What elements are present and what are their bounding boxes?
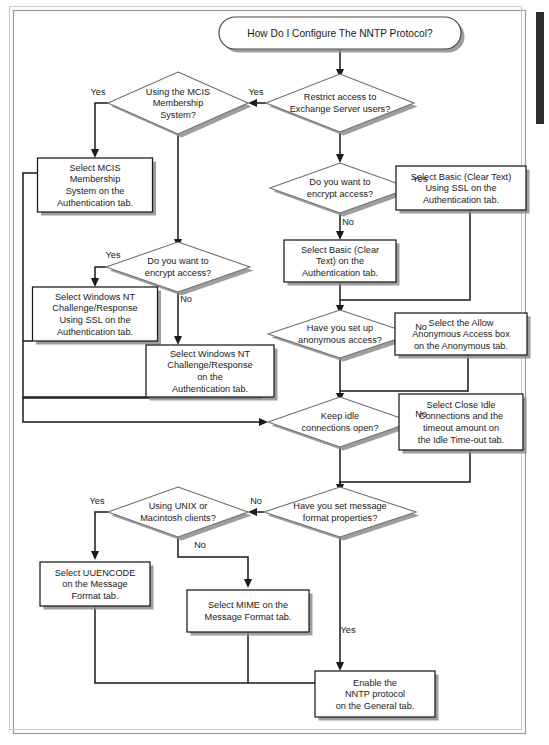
diamond-shape — [266, 74, 414, 132]
node-d_unix[interactable]: Using UNIX orMacintosh clients? — [108, 487, 252, 541]
edge-label-yes-2: Yes — [106, 250, 121, 260]
connector-banon-down — [340, 355, 468, 391]
flowchart-canvas: How Do I Configure The NNTP Protocol?Res… — [0, 0, 549, 745]
connector-mcis-yes — [95, 103, 108, 152]
diamond-shape — [268, 397, 412, 447]
node-b_uuencode[interactable]: Select UUENCODEon the MessageFormat tab. — [40, 562, 154, 610]
node-label: Restrict access toExchange Server users? — [290, 92, 391, 114]
diamond-shape — [270, 163, 410, 213]
flowchart-page: How Do I Configure The NNTP Protocol?Res… — [0, 0, 549, 745]
edge-label-no-5: No — [342, 217, 354, 227]
node-b_enable[interactable]: Enable theNNTP protocolon the General ta… — [315, 671, 439, 721]
arrowhead-encrypt-right — [336, 154, 344, 163]
diamond-shape — [268, 310, 412, 358]
edge-label-no-8: No — [250, 496, 262, 506]
node-b_anon[interactable]: Select the AllowAnonymous Access boxon t… — [395, 313, 531, 359]
connector-bus-to-idle — [23, 398, 262, 422]
node-label: Have you set messageformat properties? — [293, 501, 386, 523]
edge-label-yes-0: Yes — [249, 87, 264, 97]
node-label: Select Close IdleConnections and thetime… — [418, 400, 504, 445]
box-shape — [187, 590, 309, 632]
arrowhead-bmcis — [91, 149, 99, 158]
diamond-shape — [106, 242, 250, 292]
node-start[interactable]: How Do I Configure The NNTP Protocol? — [219, 17, 465, 53]
arrowhead-buuencode — [91, 551, 99, 560]
edge-label-no-6: No — [415, 322, 427, 332]
arrowhead-bntssl — [91, 278, 99, 287]
node-label: How Do I Configure The NNTP Protocol? — [247, 28, 433, 39]
node-label: Using UNIX orMacintosh clients? — [140, 501, 216, 523]
arrowhead-bbasic — [336, 231, 344, 240]
node-b_mime[interactable]: Select MIME on theMessage Format tab. — [187, 590, 313, 636]
node-b_mcis[interactable]: Select MCISMembershipSystem on theAuthen… — [38, 158, 157, 216]
nodes-layer: How Do I Configure The NNTP Protocol?Res… — [33, 17, 531, 721]
edge-label-yes-11: Yes — [341, 625, 356, 635]
edge-label-no-7: No — [415, 409, 427, 419]
node-b_nt[interactable]: Select Windows NTChallenge/Responseon th… — [146, 345, 278, 401]
arrowhead-enable-top — [336, 662, 344, 671]
arrowhead-bnt — [174, 336, 182, 345]
node-d_encrypt_right[interactable]: Do you want toencrypt access? — [270, 163, 414, 217]
edge-label-yes-9: Yes — [90, 496, 105, 506]
node-label: Select Windows NTChallenge/ResponseUsing… — [52, 292, 137, 337]
diamond-shape — [108, 487, 248, 537]
node-label: Do you want toencrypt access? — [307, 177, 373, 199]
node-d_anon[interactable]: Have you set upanonymous access? — [268, 310, 416, 362]
node-d_msgfmt[interactable]: Have you set messageformat properties? — [264, 487, 420, 541]
node-label: Have you set upanonymous access? — [298, 323, 382, 345]
node-label: Select MIME on theMessage Format tab. — [205, 600, 292, 622]
node-d_mcis[interactable]: Using the MCISMembershipSystem? — [108, 72, 252, 138]
edge-label-yes-1: Yes — [91, 87, 106, 97]
node-b_idle[interactable]: Select Close IdleConnections and thetime… — [399, 394, 527, 454]
arrowhead-bmime — [244, 579, 252, 588]
node-b_ntssl[interactable]: Select Windows NTChallenge/ResponseUsing… — [33, 287, 162, 345]
connector-bidle-down — [340, 450, 470, 482]
page-edge-bar — [536, 12, 544, 124]
diamond-shape — [264, 487, 416, 537]
connector-unix-yes — [95, 512, 108, 554]
edge-label-no-3: No — [180, 294, 192, 304]
node-d_restrict[interactable]: Restrict access toExchange Server users? — [266, 74, 418, 136]
edge-label-no-10: No — [194, 540, 206, 550]
node-d_idle[interactable]: Keep idleconnections open? — [268, 397, 416, 451]
connector-unix-no — [178, 537, 248, 582]
node-b_basic[interactable]: Select Basic (ClearText) on theAuthentic… — [284, 240, 400, 286]
edge-label-yes-4: Yes — [413, 174, 428, 184]
node-label: Do you want toencrypt access? — [145, 256, 211, 278]
